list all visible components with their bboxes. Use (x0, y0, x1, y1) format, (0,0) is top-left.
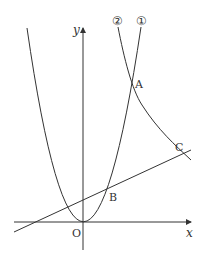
line-bc (14, 150, 191, 232)
curve-1-label: ① (136, 14, 147, 28)
diagram: y x O ② ① A B C (0, 0, 201, 264)
curve-2-label: ② (112, 14, 123, 28)
point-c-label: C (175, 141, 183, 154)
x-axis-label: x (186, 226, 193, 240)
point-a-label: A (134, 78, 144, 91)
origin-label: O (72, 227, 81, 240)
y-axis-label: y (72, 23, 80, 37)
point-b-label: B (109, 191, 117, 204)
